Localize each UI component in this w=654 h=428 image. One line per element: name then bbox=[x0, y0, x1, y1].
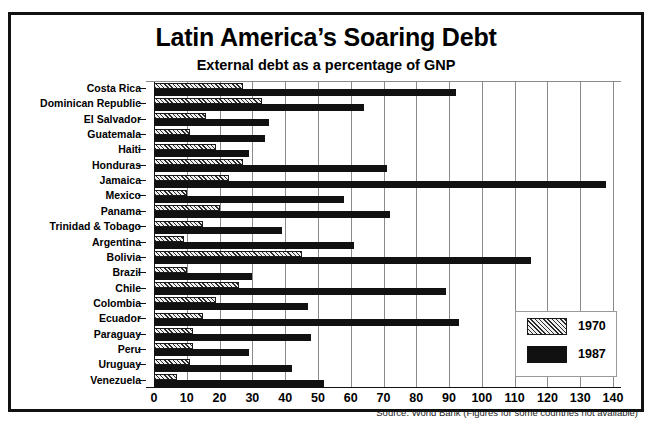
chart-subtitle: External debt as a percentage of GNP bbox=[11, 57, 641, 73]
chart-frame: Latin America’s Soaring Debt External de… bbox=[8, 12, 644, 412]
category-label: Venezuela bbox=[90, 375, 141, 385]
value-axis-labels: 0102030405060708090100110120130140 bbox=[11, 391, 647, 407]
x-tick-label-130: 130 bbox=[570, 391, 591, 405]
category-label: Colombia bbox=[93, 298, 141, 308]
category-label: Bolivia bbox=[107, 252, 141, 262]
category-tick bbox=[138, 103, 146, 104]
category-label: Mexico bbox=[105, 190, 141, 200]
category-tick bbox=[138, 288, 146, 289]
category-label: El Salvador bbox=[84, 114, 141, 124]
category-label: Costa Rica bbox=[87, 83, 141, 93]
category-tick bbox=[138, 226, 146, 227]
category-tick bbox=[138, 257, 146, 258]
x-tick-label-80: 80 bbox=[409, 391, 423, 405]
category-label: Trinidad & Tobago bbox=[50, 221, 141, 231]
bar-1987 bbox=[154, 196, 344, 203]
bar-1987 bbox=[154, 104, 364, 111]
category-tick bbox=[138, 334, 146, 335]
legend: 1970 1987 bbox=[515, 311, 617, 377]
bar-row bbox=[146, 173, 621, 188]
bar-1987 bbox=[154, 349, 249, 356]
x-tick-label-50: 50 bbox=[311, 391, 325, 405]
bar-row bbox=[146, 81, 621, 96]
bar-row bbox=[146, 296, 621, 311]
bar-1987 bbox=[154, 303, 308, 310]
bar-row bbox=[146, 188, 621, 203]
category-label: Brazil bbox=[112, 267, 141, 277]
category-tick bbox=[138, 195, 146, 196]
x-tick-label-20: 20 bbox=[213, 391, 227, 405]
source-note: Source: World Bank (Figures for some cou… bbox=[11, 407, 638, 418]
category-tick bbox=[138, 242, 146, 243]
bar-1987 bbox=[154, 288, 446, 295]
category-axis-labels: Costa RicaDominican RepublicEl SalvadorG… bbox=[11, 81, 141, 388]
category-label: Paraguay bbox=[94, 329, 141, 339]
bar-1987 bbox=[154, 211, 390, 218]
bar-row bbox=[146, 127, 621, 142]
category-tick bbox=[138, 380, 146, 381]
bar-1987 bbox=[154, 165, 387, 172]
legend-swatch-1970 bbox=[527, 318, 567, 335]
legend-item-1970: 1970 bbox=[516, 318, 616, 344]
bar-1987 bbox=[154, 334, 311, 341]
category-label: Ecuador bbox=[99, 313, 141, 323]
category-label: Argentina bbox=[92, 237, 141, 247]
bar-row bbox=[146, 142, 621, 157]
bar-1987 bbox=[154, 319, 459, 326]
bar-row bbox=[146, 158, 621, 173]
bar-1987 bbox=[154, 380, 324, 387]
bar-1987 bbox=[154, 135, 265, 142]
bar-1987 bbox=[154, 89, 456, 96]
category-label: Uruguay bbox=[98, 359, 141, 369]
x-tick-label-70: 70 bbox=[377, 391, 391, 405]
category-tick bbox=[138, 88, 146, 89]
bar-1987 bbox=[154, 181, 606, 188]
x-tick-label-0: 0 bbox=[151, 391, 158, 405]
bar-row bbox=[146, 235, 621, 250]
bar-1987 bbox=[154, 242, 354, 249]
x-tick-label-90: 90 bbox=[442, 391, 456, 405]
bar-1987 bbox=[154, 365, 292, 372]
x-tick-label-30: 30 bbox=[245, 391, 259, 405]
category-tick bbox=[138, 165, 146, 166]
legend-label-1987: 1987 bbox=[578, 347, 606, 361]
category-tick bbox=[138, 272, 146, 273]
legend-item-1987: 1987 bbox=[516, 346, 616, 372]
bar-1987 bbox=[154, 227, 282, 234]
category-tick bbox=[138, 318, 146, 319]
category-tick bbox=[138, 119, 146, 120]
category-tick bbox=[138, 303, 146, 304]
x-tick-label-60: 60 bbox=[344, 391, 358, 405]
bar-row bbox=[146, 281, 621, 296]
legend-label-1970: 1970 bbox=[578, 319, 606, 333]
bar-1987 bbox=[154, 257, 531, 264]
category-tick bbox=[138, 349, 146, 350]
x-tick-label-10: 10 bbox=[180, 391, 194, 405]
bar-row bbox=[146, 265, 621, 280]
category-label: Jamaica bbox=[100, 175, 141, 185]
bar-row bbox=[146, 204, 621, 219]
bar-1987 bbox=[154, 119, 269, 126]
bar-row bbox=[146, 112, 621, 127]
chart-title: Latin America’s Soaring Debt bbox=[11, 23, 641, 52]
category-label: Guatemala bbox=[87, 129, 141, 139]
category-tick bbox=[138, 364, 146, 365]
category-tick bbox=[138, 149, 146, 150]
category-tick bbox=[138, 134, 146, 135]
x-tick-label-40: 40 bbox=[278, 391, 292, 405]
legend-swatch-1987 bbox=[527, 346, 567, 363]
bar-1987 bbox=[154, 150, 249, 157]
category-label: Honduras bbox=[92, 160, 141, 170]
bar-row bbox=[146, 250, 621, 265]
category-tick bbox=[138, 211, 146, 212]
x-tick-label-140: 140 bbox=[603, 391, 624, 405]
category-label: Dominican Republic bbox=[40, 98, 141, 108]
bar-row bbox=[146, 96, 621, 111]
x-tick-label-100: 100 bbox=[471, 391, 492, 405]
category-label: Panama bbox=[101, 206, 141, 216]
x-tick-label-110: 110 bbox=[505, 391, 525, 405]
x-tick-label-120: 120 bbox=[537, 391, 558, 405]
category-tick bbox=[138, 180, 146, 181]
bar-1987 bbox=[154, 273, 252, 280]
bar-row bbox=[146, 219, 621, 234]
